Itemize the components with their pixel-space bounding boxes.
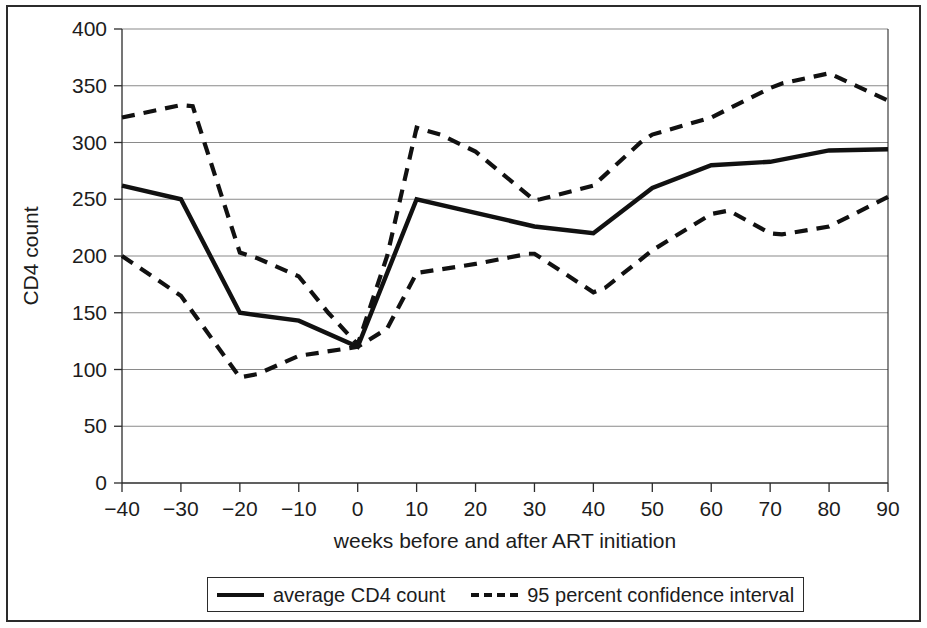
x-axis-title: weeks before and after ART initiation bbox=[333, 529, 676, 552]
y-tick-label: 350 bbox=[72, 74, 107, 97]
x-tick-label: 60 bbox=[700, 497, 723, 520]
y-tick-label: 250 bbox=[72, 187, 107, 210]
x-tick-label: 80 bbox=[817, 497, 840, 520]
legend-entry-average: average CD4 count bbox=[217, 585, 445, 605]
x-tick-label: 70 bbox=[758, 497, 781, 520]
data-series-group bbox=[122, 73, 888, 377]
x-tick-label: 50 bbox=[641, 497, 664, 520]
y-tick-label: 400 bbox=[72, 17, 107, 40]
legend-label-confidence-interval: 95 percent confidence interval bbox=[527, 585, 794, 605]
x-tick-label: 10 bbox=[405, 497, 428, 520]
y-tick-label: 150 bbox=[72, 301, 107, 324]
x-tick-label: 40 bbox=[582, 497, 605, 520]
y-axis-title: CD4 count bbox=[19, 206, 42, 305]
x-tick-label: 20 bbox=[464, 497, 487, 520]
cd4-line-chart: 050100150200250300350400 −40−30−20−10010… bbox=[0, 0, 927, 628]
figure-container: 050100150200250300350400 −40−30−20−10010… bbox=[0, 0, 927, 628]
x-tick-label: 0 bbox=[352, 497, 364, 520]
tick-marks-group bbox=[114, 29, 888, 492]
legend-entry-confidence-interval: 95 percent confidence interval bbox=[471, 585, 794, 605]
chart-legend: average CD4 count 95 percent confidence … bbox=[207, 577, 804, 612]
y-tick-label: 50 bbox=[84, 414, 107, 437]
x-tick-label: −20 bbox=[222, 497, 258, 520]
x-tick-label: −40 bbox=[104, 497, 140, 520]
x-tick-labels-group: −40−30−20−100102030405060708090 bbox=[104, 497, 899, 520]
legend-label-average: average CD4 count bbox=[273, 585, 445, 605]
y-tick-label: 0 bbox=[95, 471, 107, 494]
y-tick-label: 200 bbox=[72, 244, 107, 267]
y-tick-label: 300 bbox=[72, 131, 107, 154]
solid-line-swatch-icon bbox=[217, 593, 264, 597]
x-tick-label: −30 bbox=[163, 497, 199, 520]
x-tick-label: 30 bbox=[523, 497, 546, 520]
y-tick-label: 100 bbox=[72, 358, 107, 381]
dashed-line-swatch-icon bbox=[471, 593, 518, 597]
series-line bbox=[122, 197, 888, 377]
x-tick-label: −10 bbox=[281, 497, 317, 520]
y-tick-labels-group: 050100150200250300350400 bbox=[72, 17, 107, 494]
plot-area: 050100150200250300350400 −40−30−20−10010… bbox=[0, 0, 927, 628]
x-tick-label: 90 bbox=[876, 497, 899, 520]
